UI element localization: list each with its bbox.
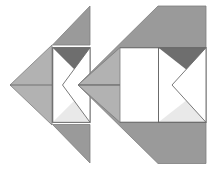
puzzle-figure <box>0 0 208 169</box>
dissection-diagram <box>0 0 208 169</box>
piece-notched-square-after <box>159 48 207 123</box>
